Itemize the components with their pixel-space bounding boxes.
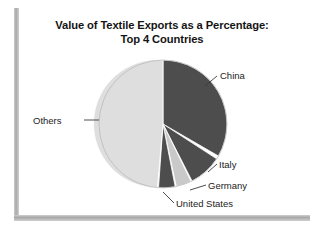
pie-label-germany: Germany: [208, 180, 247, 191]
leader-line-united-states: [163, 192, 174, 203]
pie-slices: [93, 60, 227, 188]
pie-slice-others[interactable]: [93, 60, 163, 188]
pie-label-china: China: [220, 70, 245, 81]
pie-label-united-states: United States: [176, 198, 233, 209]
chart-figure: Value of Textile Exports as a Percentage…: [0, 0, 315, 239]
pie-label-others: Others: [33, 115, 62, 126]
pie-label-italy: Italy: [219, 159, 236, 170]
pie-chart-plot-area: China Italy Germany United States Others: [0, 0, 315, 239]
leader-line-germany: [190, 185, 206, 190]
